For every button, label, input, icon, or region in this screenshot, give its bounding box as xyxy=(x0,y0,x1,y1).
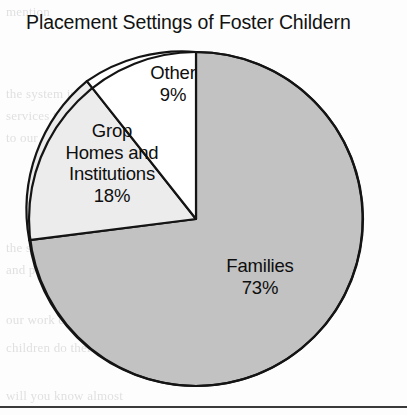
figure-page: mention the system is operating and serv… xyxy=(0,0,407,415)
pie-label-other-percent: 9% xyxy=(125,84,221,106)
pie-chart: Other 9% Grop Homes and Institutions 18%… xyxy=(0,0,407,400)
pie-label-group-homes: Grop Homes and Institutions 18% xyxy=(36,120,188,206)
pie-label-group-homes-line2: Homes and xyxy=(36,142,188,164)
footer-rule xyxy=(0,406,407,408)
pie-label-families-name: Families xyxy=(226,255,293,276)
pie-label-other-name: Other xyxy=(150,62,195,83)
pie-label-group-homes-line1: Grop xyxy=(36,120,188,142)
pie-label-group-homes-line3: Institutions xyxy=(36,163,188,185)
pie-label-other: Other 9% xyxy=(125,62,221,105)
pie-label-families-percent: 73% xyxy=(190,277,330,299)
chart-title: Placement Settings of Foster Childern xyxy=(26,10,386,34)
pie-label-group-homes-percent: 18% xyxy=(36,185,188,207)
pie-label-families: Families 73% xyxy=(190,255,330,298)
